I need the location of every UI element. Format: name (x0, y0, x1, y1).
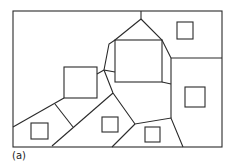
edge (104, 40, 115, 72)
edge (115, 19, 141, 40)
square-bottom-left (31, 123, 48, 139)
square-big-center (115, 40, 162, 82)
square-right-mid (185, 87, 205, 107)
edge (112, 124, 135, 147)
partition-diagram (0, 0, 234, 166)
edge (97, 70, 104, 74)
figure-label: (a) (12, 150, 26, 161)
edge (162, 82, 171, 84)
square-left (64, 67, 97, 98)
square-bottom-mid (102, 117, 118, 132)
edge (141, 19, 171, 58)
square-top-right (177, 22, 193, 39)
edge (52, 93, 113, 146)
edge (55, 104, 73, 127)
square-bottom-right (145, 127, 160, 142)
